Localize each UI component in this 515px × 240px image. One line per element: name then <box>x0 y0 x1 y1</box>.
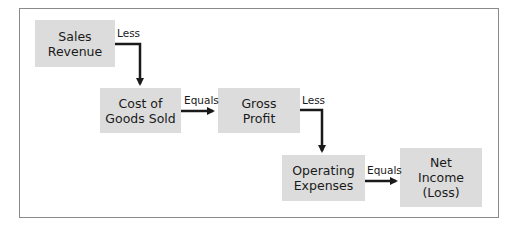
edge-label-equals-1: Equals <box>184 94 219 106</box>
node-net-income: Net Income (Loss) <box>400 148 482 207</box>
node-gross-profit: Gross Profit <box>218 88 300 133</box>
edge-label-less-2: Less <box>302 94 325 106</box>
node-sales-revenue: Sales Revenue <box>35 20 115 67</box>
arrow-less-1 <box>115 44 140 84</box>
node-cost-of-goods-sold: Cost of Goods Sold <box>100 88 181 133</box>
edge-label-less-1: Less <box>117 27 140 39</box>
edge-label-equals-2: Equals <box>367 164 402 176</box>
node-operating-expenses: Operating Expenses <box>282 155 365 201</box>
arrow-less-2 <box>300 110 322 151</box>
